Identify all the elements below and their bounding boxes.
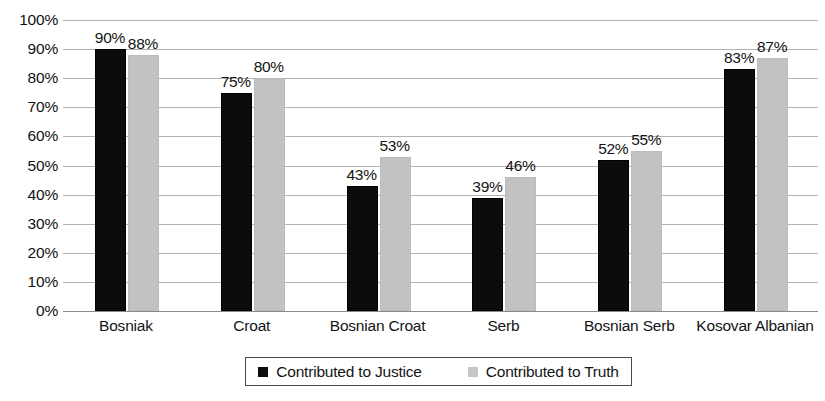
bar-justice <box>598 160 629 311</box>
bar-value-label: 46% <box>493 158 547 174</box>
y-axis-tick-label: 100% <box>2 12 58 28</box>
bar-value-label: 80% <box>242 59 296 75</box>
chart-legend: Contributed to Justice Contributed to Tr… <box>245 357 632 386</box>
x-axis-category-label: Kosovar Albanian <box>692 318 818 334</box>
y-axis-tick-label: 40% <box>2 187 58 203</box>
bar-justice <box>95 49 126 311</box>
gridline <box>63 311 818 312</box>
bar-truth <box>631 151 662 311</box>
legend-entry-truth: Contributed to Truth <box>468 364 619 380</box>
x-axis-category-label: Serb <box>441 318 567 334</box>
bar-justice <box>347 186 378 311</box>
legend-label-justice: Contributed to Justice <box>276 364 422 380</box>
bar-group: 52%55% <box>576 20 682 311</box>
x-axis-category-label: Croat <box>189 318 315 334</box>
bar-truth <box>757 58 788 311</box>
bar-chart: 100%90%80%70%60%50%40%30%20%10%0% 90%88%… <box>0 0 825 401</box>
bar-group: 75%80% <box>199 20 305 311</box>
y-axis-tick-label: 50% <box>2 158 58 174</box>
bar-justice <box>221 93 252 311</box>
bar-group: 90%88% <box>73 20 179 311</box>
y-axis-tick-label: 20% <box>2 245 58 261</box>
bar-truth <box>505 177 536 311</box>
bar-group: 83%87% <box>702 20 808 311</box>
truth-swatch-icon <box>468 367 478 377</box>
y-axis-tick-label: 80% <box>2 70 58 86</box>
y-axis-tick-label: 90% <box>2 41 58 57</box>
bar-value-label: 88% <box>116 36 170 52</box>
bar-group: 39%46% <box>450 20 556 311</box>
bar-value-label: 53% <box>368 138 422 154</box>
bar-justice <box>472 198 503 311</box>
legend-entry-justice: Contributed to Justice <box>258 364 422 380</box>
x-axis-category-label: Bosnian Serb <box>566 318 692 334</box>
y-axis-tick-label: 70% <box>2 99 58 115</box>
bar-value-label: 87% <box>745 39 799 55</box>
bar-truth <box>254 78 285 311</box>
legend-label-truth: Contributed to Truth <box>486 364 619 380</box>
bar-value-label: 55% <box>619 132 673 148</box>
y-axis-tick-label: 10% <box>2 274 58 290</box>
y-axis-tick-label: 30% <box>2 216 58 232</box>
y-axis-tick-label: 60% <box>2 128 58 144</box>
y-axis-tick-label: 0% <box>2 303 58 319</box>
x-axis-category-label: Bosnian Croat <box>315 318 441 334</box>
bar-justice <box>724 69 755 311</box>
justice-swatch-icon <box>258 367 268 377</box>
y-axis: 100%90%80%70%60%50%40%30%20%10%0% <box>0 20 58 311</box>
bar-truth <box>128 55 159 311</box>
x-axis-category-label: Bosniak <box>63 318 189 334</box>
bar-truth <box>380 157 411 311</box>
bar-group: 43%53% <box>325 20 431 311</box>
